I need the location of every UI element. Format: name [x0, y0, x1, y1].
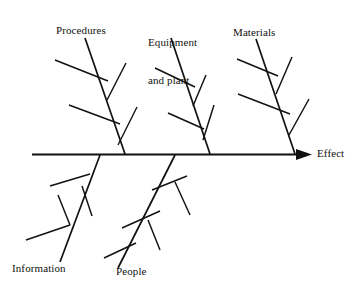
- procedures-twig-upper-right: [107, 63, 126, 100]
- materials-twig-upper-right: [276, 57, 292, 94]
- materials-twig-lower-left: [238, 94, 290, 114]
- procedures-twig-upper-left: [55, 60, 108, 81]
- people-twig-upper-right: [175, 182, 190, 215]
- people-rib: [118, 155, 175, 268]
- equipment-twig-lower-right: [203, 105, 214, 140]
- branch-materials: [237, 39, 309, 154]
- category-label-equipment-line1: Equipment: [148, 36, 197, 49]
- category-label-people: People: [116, 265, 147, 278]
- branch-people: [104, 155, 190, 268]
- materials-twig-lower-right: [289, 99, 309, 135]
- fishbone-diagram: Procedures Equipment and plant Materials…: [0, 0, 361, 292]
- materials-rib: [256, 39, 295, 154]
- effect-label: Effect: [317, 147, 344, 160]
- category-label-equipment-line2: and plant: [148, 74, 197, 87]
- category-label-equipment: Equipment and plant: [148, 11, 197, 111]
- category-label-information: Information: [12, 262, 66, 275]
- spine-arrowhead-icon: [296, 149, 312, 160]
- procedures-twig-lower-right: [118, 107, 137, 145]
- information-twig-lower-right: [58, 195, 70, 225]
- information-twig-lower-left: [26, 225, 70, 240]
- people-twig-upper-left: [152, 176, 187, 190]
- procedures-twig-lower-left: [69, 105, 120, 124]
- category-label-materials: Materials: [233, 26, 275, 39]
- people-twig-lower-left: [104, 243, 136, 258]
- procedures-rib: [85, 38, 125, 154]
- materials-twig-upper-left: [237, 59, 278, 76]
- information-twig-upper-left: [50, 174, 90, 186]
- spine-group: [32, 149, 312, 160]
- category-label-procedures: Procedures: [56, 24, 106, 37]
- branch-procedures: [55, 38, 137, 154]
- branch-information: [26, 155, 100, 262]
- people-twig-middle-left: [122, 211, 160, 228]
- information-rib: [60, 155, 100, 262]
- people-twig-middle-right: [148, 220, 160, 250]
